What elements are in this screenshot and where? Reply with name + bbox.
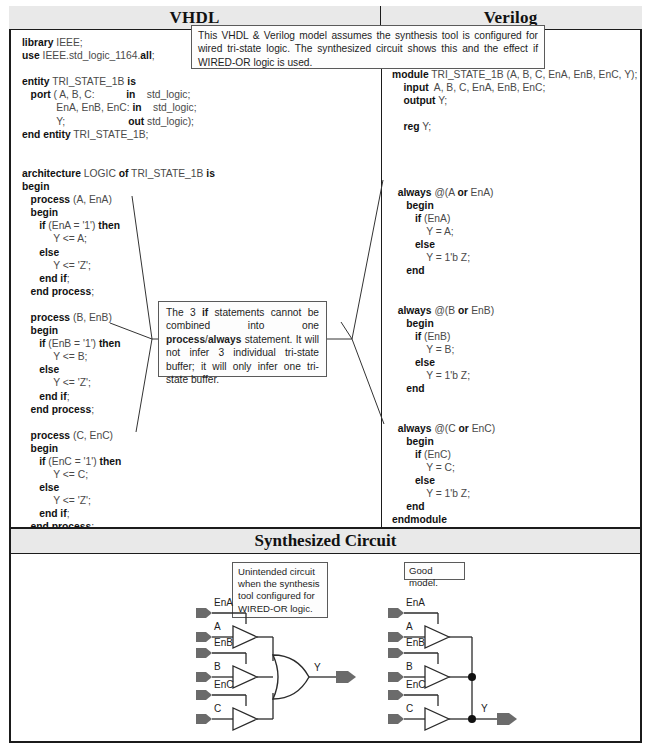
note-unintended-circuit: Unintended circuit when the synthesis to… — [232, 562, 328, 618]
note-mid-part1: The 3 — [166, 307, 202, 318]
left-label-y: Y — [314, 662, 321, 673]
left-label-ena: EnA — [214, 597, 233, 608]
synthesized-circuit-header: Synthesized Circuit — [11, 529, 640, 554]
column-divider — [381, 30, 382, 527]
left-label-a: A — [214, 621, 221, 632]
right-label-ena: EnA — [406, 597, 425, 608]
note-good-model: Good model. — [404, 562, 465, 580]
note-mid-bold-process: process — [166, 334, 205, 345]
left-label-c: C — [214, 703, 221, 714]
left-label-enb: EnB — [214, 637, 233, 648]
right-label-enc: EnC — [406, 679, 425, 690]
right-label-y: Y — [481, 703, 488, 714]
right-label-c: C — [406, 703, 413, 714]
left-label-enc: EnC — [214, 679, 233, 690]
right-label-a: A — [406, 621, 413, 632]
note-if-statements: The 3 if statements cannot be combined i… — [158, 301, 327, 377]
vhdl-code-block: library IEEE; use IEEE.std_logic_1164.al… — [22, 36, 215, 547]
right-label-b: B — [406, 661, 413, 672]
note-assumption: This VHDL & Verilog model assumes the sy… — [191, 25, 545, 69]
right-label-enb: EnB — [406, 637, 425, 648]
page-root: VHDL Verilog library IEEE; use IEEE.std_… — [0, 0, 651, 749]
note-mid-bold-always: always — [208, 334, 241, 345]
left-label-b: B — [214, 661, 221, 672]
verilog-code-block: module TRI_STATE_1B (A, B, C, EnA, EnB, … — [392, 68, 637, 526]
